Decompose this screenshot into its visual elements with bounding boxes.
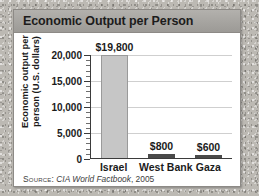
source-work-title: CIA World Factbook [56,174,131,184]
y-axis-tick-label: 15,000 [51,76,82,87]
y-axis-tick-label: 10,000 [51,102,82,113]
y-axis-tick-labels: 05,00010,00015,00020,000 [39,55,82,159]
bar-series: $19,800$800$600 [91,55,232,158]
chart-card: Economic Output per Person Economic outp… [13,9,241,187]
y-axis-title: Economic output per person (U.S. dollars… [20,30,41,134]
source-note: Source: CIA World Factbook, 2005 [23,174,154,184]
page-title: Economic Output per Person [23,14,193,28]
bar-value-label: $800 [150,140,173,152]
bar-slot: $600 [187,55,231,158]
y-axis-tick-label: 20,000 [51,50,82,61]
bar-slot: $19,800 [93,55,137,158]
bar-value-label: $600 [197,141,220,153]
y-axis-title-line-1: Economic output per [20,30,31,134]
bar-value-label: $19,800 [96,41,134,53]
bar [148,154,176,158]
source-year: , 2005 [131,174,154,184]
bar [195,155,223,159]
bar [101,55,129,158]
x-axis-category-label: Gaza [186,161,230,173]
plot-area: $19,800$800$600 [90,55,232,159]
x-axis-category-label: West Bank [139,161,183,173]
y-axis-tick-label: 5,000 [57,128,82,139]
y-axis-major-tick [84,159,90,160]
chart-title-bar: Economic Output per Person [14,10,240,33]
y-axis-tick-label: 0 [76,154,82,165]
bar-slot: $800 [140,55,184,158]
chart-body: Economic output per person (U.S. dollars… [14,33,240,188]
source-label: Source: [23,174,54,184]
x-axis-category-label: Israel [92,161,136,173]
x-axis-category-labels: IsraelWest BankGaza [90,161,232,173]
